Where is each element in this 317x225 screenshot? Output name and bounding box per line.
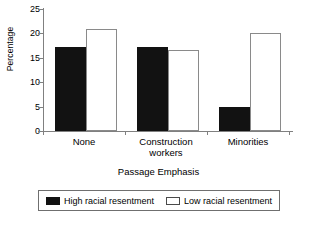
legend-swatch-icon-high [46,197,60,205]
x-category-label-construction: Construction workers [125,136,207,158]
x-tick-mark [207,131,208,135]
x-tick-mark [289,131,290,135]
bar-high-none [55,47,86,131]
x-axis-title: Passage Emphasis [0,166,317,177]
bar-low-none [86,29,117,131]
x-category-label-minorities: Minorities [207,136,289,147]
bar-low-minorities [250,33,281,131]
x-category-label-none: None [43,136,125,147]
bar-high-construction [137,47,168,131]
x-axis-line [43,131,293,132]
bar-high-minorities [219,107,250,131]
legend-label-high: High racial resentment [64,196,154,206]
x-tick-mark [43,131,44,135]
x-tick-mark [125,131,126,135]
legend-label-low: Low racial resentment [184,196,272,206]
legend-entry-low: Low racial resentment [166,196,272,206]
legend-swatch-icon-low [166,197,180,205]
plot-area [43,9,289,131]
bar-chart-figure: Percentage 25 20 15 10 5 0 [0,0,317,225]
legend-entry-high: High racial resentment [46,196,154,206]
bar-low-construction [168,50,199,131]
legend: High racial resentment Low racial resent… [38,190,280,211]
y-axis-title: Percentage [5,18,15,80]
